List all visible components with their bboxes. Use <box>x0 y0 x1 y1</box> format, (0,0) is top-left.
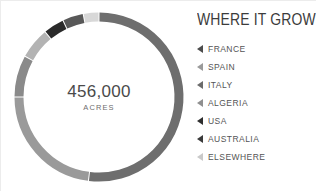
legend-item-usa[interactable]: USA <box>197 113 313 129</box>
triangle-left-icon <box>197 117 203 125</box>
legend-item-label: USA <box>208 117 227 126</box>
donut-slice-group <box>19 17 179 177</box>
legend-item-label: AUSTRALIA <box>208 135 259 144</box>
donut-slice-spain[interactable] <box>19 97 88 176</box>
legend-item-label: ITALY <box>208 81 233 90</box>
donut-chart-svg <box>9 7 189 187</box>
legend-item-france[interactable]: FRANCE <box>197 41 313 57</box>
triangle-left-icon <box>197 63 203 71</box>
legend-item-label: FRANCE <box>208 45 246 54</box>
triangle-left-icon <box>197 45 203 53</box>
donut-slice-italy[interactable] <box>19 59 29 97</box>
donut-slice-australia[interactable] <box>65 19 83 25</box>
legend-item-algeria[interactable]: ALGERIA <box>197 95 313 111</box>
legend-item-list: FRANCESPAINITALYALGERIAUSAAUSTRALIAELSEW… <box>197 41 313 165</box>
legend-item-italy[interactable]: ITALY <box>197 77 313 93</box>
triangle-left-icon <box>197 81 203 89</box>
infographic-panel: 456,000 ACRES WHERE IT GROWS FRANCESPAIN… <box>0 0 316 191</box>
legend-item-australia[interactable]: AUSTRALIA <box>197 131 313 147</box>
donut-slice-elsewhere[interactable] <box>84 17 98 18</box>
triangle-left-icon <box>197 135 203 143</box>
donut-chart: 456,000 ACRES <box>9 7 189 187</box>
triangle-left-icon <box>197 153 203 161</box>
legend-item-spain[interactable]: SPAIN <box>197 59 313 75</box>
legend-item-label: ELSEWHERE <box>208 153 265 162</box>
legend-title: WHERE IT GROWS <box>197 11 292 28</box>
legend-item-label: SPAIN <box>208 63 235 72</box>
legend-item-label: ALGERIA <box>208 99 248 108</box>
legend: WHERE IT GROWS FRANCESPAINITALYALGERIAUS… <box>197 11 313 167</box>
triangle-left-icon <box>197 99 203 107</box>
donut-slice-algeria[interactable] <box>29 36 47 58</box>
donut-slice-france[interactable] <box>89 17 179 177</box>
donut-slice-usa[interactable] <box>48 25 64 35</box>
legend-item-elsewhere[interactable]: ELSEWHERE <box>197 149 313 165</box>
